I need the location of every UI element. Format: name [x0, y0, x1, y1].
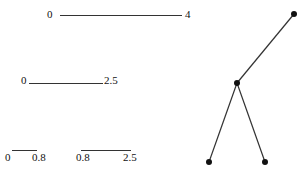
tree-node-leaf-right [262, 159, 268, 165]
tree-node-leaf-left [206, 159, 212, 165]
tree-edge-internal-right [237, 83, 265, 162]
tree-edge-root-internal [237, 14, 294, 83]
tree-edge-internal-left [209, 83, 237, 162]
tree-diagram [0, 0, 302, 172]
tree-node-root [291, 11, 297, 17]
tree-node-internal [234, 80, 240, 86]
